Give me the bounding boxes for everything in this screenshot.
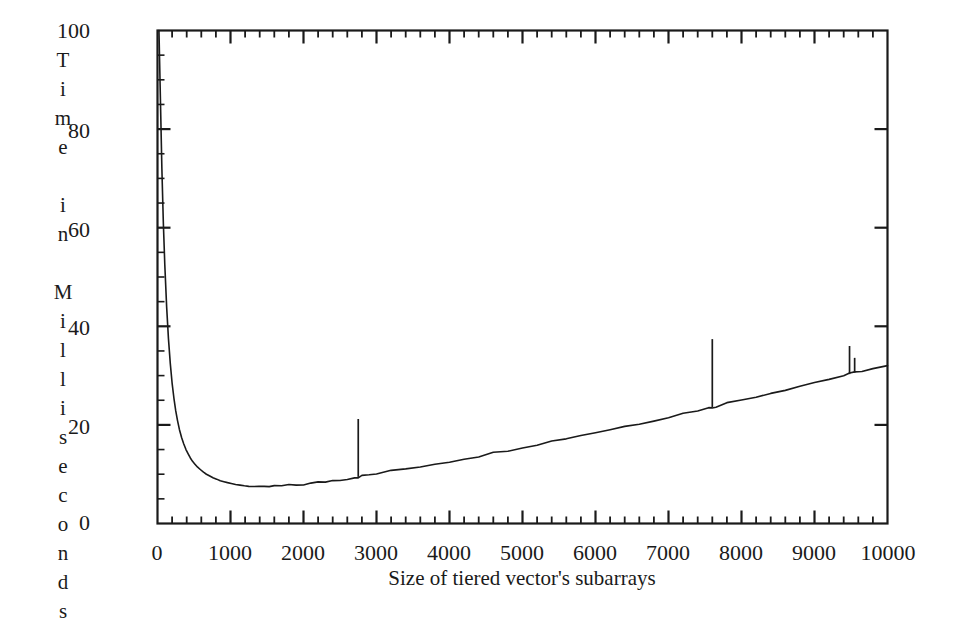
axes-frame-box (158, 31, 888, 524)
x-axis-ticks (172, 31, 873, 524)
plot-area (0, 0, 958, 628)
chart-figure: Time in Milliseconds 100 80 60 40 20 0 0… (0, 0, 958, 628)
data-series-line (159, 31, 888, 487)
y-axis-ticks (158, 55, 888, 499)
data-series-spikes (358, 339, 854, 477)
axes-frame (158, 31, 888, 524)
